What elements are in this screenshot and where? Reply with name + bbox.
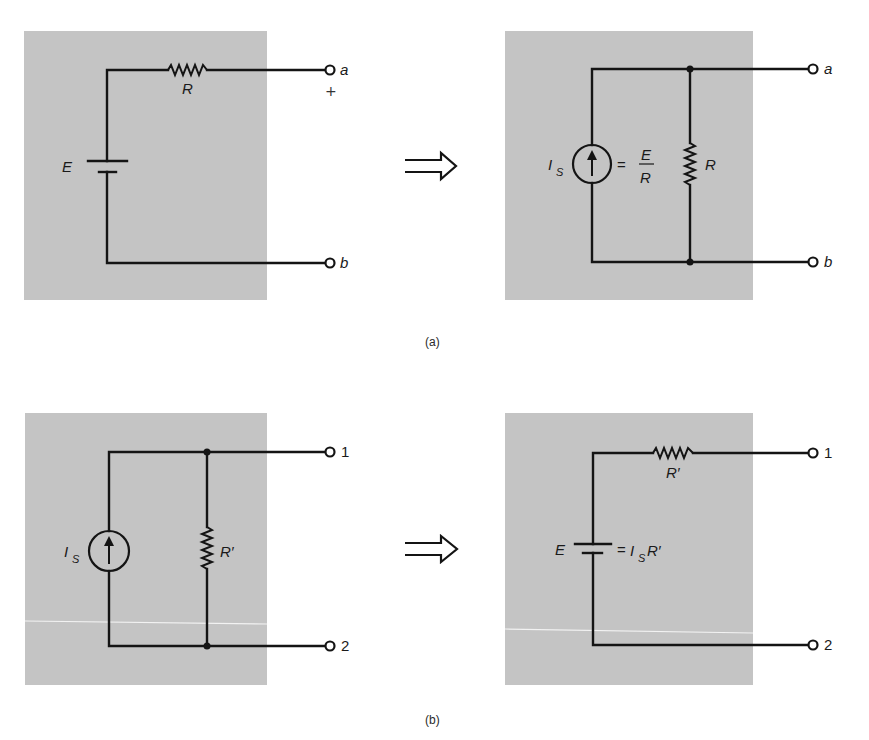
panel-a-right: I S = E R R a b [505, 31, 832, 300]
terminal-b-label: b [340, 254, 348, 271]
terminal-2-label: 2 [824, 636, 832, 653]
source-label-subscript: S [72, 553, 80, 565]
panel-a-left: R E a + b [24, 31, 348, 300]
expr-is: I [630, 542, 634, 559]
source-label-e: E [62, 158, 73, 175]
terminal-2-icon [326, 642, 335, 651]
junction-dot-icon [687, 66, 694, 73]
plus-sign: + [325, 83, 337, 99]
terminal-1-icon [326, 448, 335, 457]
equals-sign: = [617, 541, 626, 558]
source-label-e: E [555, 541, 566, 558]
terminal-2-icon [809, 641, 818, 650]
resistor-label: R [705, 156, 716, 173]
expr-r-prime: R′ [647, 542, 662, 559]
terminal-a-label: a [340, 61, 348, 78]
source-label-is: I [548, 156, 552, 173]
panel-b-left: I S R′ 1 2 [25, 413, 349, 685]
terminal-1-icon [809, 449, 818, 458]
fraction-numerator: E [641, 146, 652, 163]
source-conversion-figure: R E a + b I S = E [0, 0, 869, 740]
equals-sign: = [617, 156, 626, 173]
expr-subscript: S [638, 552, 646, 564]
shaded-network-box [24, 31, 267, 300]
caption-a: (a) [425, 335, 440, 349]
fraction-denominator: R [640, 169, 651, 186]
terminal-b-icon [326, 259, 335, 268]
source-label-subscript: S [556, 166, 564, 178]
terminal-a-icon [809, 65, 818, 74]
junction-dot-icon [687, 259, 694, 266]
caption-b: (b) [425, 713, 440, 727]
junction-dot-icon [204, 449, 211, 456]
resistor-label: R [182, 80, 193, 97]
terminal-a-icon [326, 66, 335, 75]
transform-arrow-b-icon [405, 536, 457, 562]
terminal-2-label: 2 [341, 637, 349, 654]
resistor-label: R′ [220, 543, 235, 560]
terminal-1-label: 1 [341, 443, 349, 460]
transform-arrow-a-icon [405, 153, 456, 179]
junction-dot-icon [204, 643, 211, 650]
source-label-is: I [64, 543, 68, 560]
terminal-a-label: a [824, 60, 832, 77]
resistor-label: R′ [666, 464, 681, 481]
terminal-1-label: 1 [824, 444, 832, 461]
panel-b-right: R′ E = I S R′ 1 2 [505, 413, 832, 685]
terminal-b-label: b [824, 253, 832, 270]
terminal-b-icon [809, 258, 818, 267]
